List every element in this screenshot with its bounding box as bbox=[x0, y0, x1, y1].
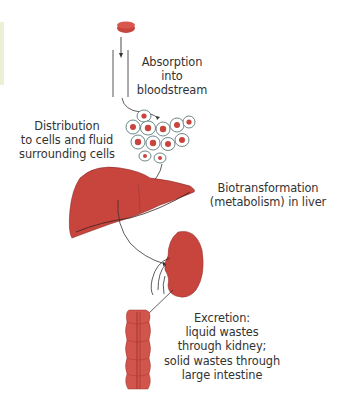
label-line: Absorption bbox=[132, 55, 212, 69]
label-line: into bbox=[132, 69, 212, 83]
absorption-label: Absorption into bloodstream bbox=[132, 55, 212, 98]
kidney-icon bbox=[151, 231, 203, 297]
label-line: bloodstream bbox=[132, 83, 212, 97]
label-line: Excretion: bbox=[158, 311, 286, 325]
label-line: large intestine bbox=[158, 368, 286, 382]
cells-icon bbox=[126, 110, 195, 163]
distribution-label: Distribution to cells and fluid surround… bbox=[12, 119, 122, 162]
label-line: through kidney; bbox=[158, 339, 286, 353]
excretion-label: Excretion: liquid wastes through kidney;… bbox=[158, 311, 286, 382]
label-line: liquid wastes bbox=[158, 325, 286, 339]
label-line: to cells and fluid bbox=[12, 133, 122, 147]
label-line: (metabolism) in liver bbox=[206, 195, 330, 209]
large-intestine-icon bbox=[126, 310, 151, 389]
pill-icon bbox=[117, 22, 135, 34]
label-line: Biotransformation bbox=[206, 181, 330, 195]
label-line: surrounding cells bbox=[12, 147, 122, 161]
arrow-down-icon bbox=[119, 37, 123, 58]
label-line: Distribution bbox=[12, 119, 122, 133]
liver-icon bbox=[69, 167, 194, 238]
biotransformation-label: Biotransformation (metabolism) in liver bbox=[206, 181, 330, 209]
label-line: solid wastes through bbox=[158, 354, 286, 368]
